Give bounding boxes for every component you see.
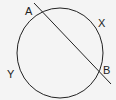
circle-secant-diagram: A B X Y — [0, 0, 116, 100]
label-point-a: A — [25, 5, 33, 17]
label-arc-y: Y — [7, 68, 15, 80]
label-arc-x: X — [98, 17, 106, 29]
circle — [17, 8, 103, 98]
label-point-b: B — [103, 64, 110, 76]
secant-line — [34, 3, 111, 84]
diagram-canvas: A B X Y — [0, 0, 116, 100]
